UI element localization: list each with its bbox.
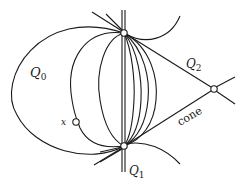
label-cone: cone bbox=[175, 104, 204, 128]
orbit-through-x bbox=[71, 32, 124, 146]
point-q-top bbox=[121, 30, 127, 36]
label-q1: Q1 bbox=[129, 164, 145, 180]
diagram-canvas: Q0 Q2 Q1 cone x bbox=[0, 0, 250, 185]
curve-bottom-right bbox=[126, 143, 180, 164]
vertex-out-lower bbox=[216, 91, 235, 104]
flow-diagram: Q0 Q2 Q1 cone x bbox=[0, 0, 250, 185]
point-x bbox=[73, 119, 79, 125]
label-q0: Q0 bbox=[30, 65, 47, 82]
vertex-out-upper bbox=[216, 77, 235, 87]
orbit-q0 bbox=[11, 27, 124, 154]
point-q1 bbox=[121, 143, 127, 149]
orbit-inner-left bbox=[99, 33, 124, 146]
label-q2: Q2 bbox=[186, 57, 202, 73]
curve-top-right bbox=[126, 16, 180, 40]
label-x: x bbox=[61, 117, 66, 127]
cone-upper bbox=[126, 34, 211, 87]
point-q2-vertex bbox=[211, 86, 217, 92]
